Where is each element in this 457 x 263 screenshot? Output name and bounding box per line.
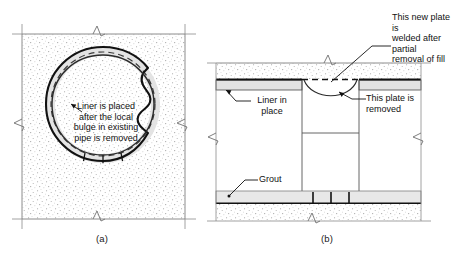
panel-b-removed-plate-note: This plate is removed [366, 93, 440, 114]
panel-b-grout-note: Grout [259, 174, 303, 185]
sag-curve [304, 80, 357, 96]
panel-a-caption: (a) [96, 233, 108, 244]
upper-liner-band-left [216, 80, 302, 90]
upper-liner-band-right [359, 80, 421, 90]
liner-note-leader-b [226, 90, 251, 101]
panel-a-liner-note: Liner is placed after the local bulge in… [62, 101, 150, 143]
panel-b-new-plate-note: This new plate is welded after partial r… [392, 12, 456, 65]
grout-band [216, 191, 421, 204]
break-right-b [413, 133, 423, 145]
upper-stippled-fill [216, 63, 421, 79]
panel-b-liner-note: Liner in place [249, 95, 295, 116]
break-left-b [208, 133, 218, 145]
panel-b-caption: (b) [321, 233, 333, 244]
removed-plate-note-leader [339, 92, 366, 99]
lower-stippled-fill [216, 204, 421, 221]
panel-b [207, 46, 431, 223]
